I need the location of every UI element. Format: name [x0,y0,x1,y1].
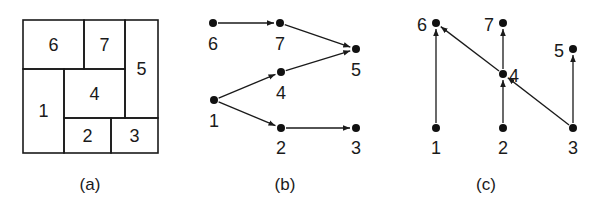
node-label: 3 [568,138,578,158]
node-label: 3 [351,138,361,158]
room-label: 2 [82,126,92,146]
node-5 [352,45,360,53]
caption-c: (c) [476,175,496,194]
edge-1-to-2 [219,102,276,126]
node-7 [276,19,284,27]
node-label: 2 [276,138,286,158]
node-label: 4 [276,83,286,103]
node-3 [569,124,577,132]
edge-4-to-5 [286,51,350,71]
node-label: 6 [208,34,218,54]
node-label: 6 [417,15,427,35]
node-1 [432,124,440,132]
node-label: 7 [484,15,494,35]
node-label: 5 [351,60,361,80]
room-label: 1 [38,101,48,121]
node-3 [352,124,360,132]
panel-a-floorplan: 6751423 [23,20,158,153]
room-label: 6 [48,35,58,55]
node-label: 1 [209,111,219,131]
panel-b-graph: 6754123 [208,19,361,158]
node-label: 1 [431,138,441,158]
node-1 [210,96,218,104]
node-label: 7 [275,34,285,54]
node-label: 2 [498,138,508,158]
node-4 [499,70,507,78]
room-label: 5 [136,59,146,79]
panel-c-graph: 6754123 [417,15,578,158]
node-6 [209,19,217,27]
node-4 [277,68,285,76]
node-7 [499,19,507,27]
caption-a: (a) [80,175,101,194]
figure: 6751423 6754123 6754123 (a) (b) (c) [0,0,600,214]
node-label: 5 [554,41,564,61]
room-label: 4 [89,84,99,104]
room-label: 7 [99,35,109,55]
node-label: 4 [509,66,519,86]
caption-b: (b) [275,175,296,194]
node-5 [569,45,577,53]
node-2 [499,124,507,132]
node-6 [432,19,440,27]
figure-canvas: 6751423 6754123 6754123 (a) (b) (c) [0,0,600,214]
edge-1-to-4 [219,74,276,98]
edge-7-to-5 [285,25,351,47]
node-2 [277,124,285,132]
room-label: 3 [129,126,139,146]
